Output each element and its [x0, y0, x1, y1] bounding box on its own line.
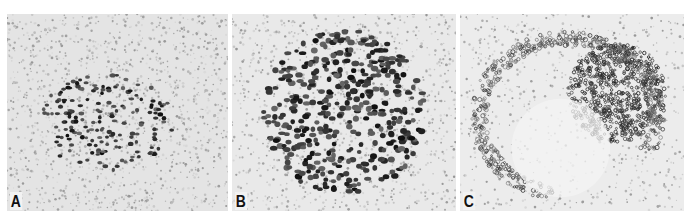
micrograph-panel-c: C [460, 14, 684, 211]
panel-label-b: B [235, 192, 248, 210]
micrograph-image-b [232, 14, 456, 211]
micrograph-image-a [7, 14, 228, 211]
micrograph-panel-a: A [7, 14, 228, 211]
micrograph-panel-b: B [232, 14, 456, 211]
panel-label-a: A [10, 192, 23, 210]
micrograph-image-c [460, 14, 684, 211]
panel-label-c: C [463, 192, 476, 210]
